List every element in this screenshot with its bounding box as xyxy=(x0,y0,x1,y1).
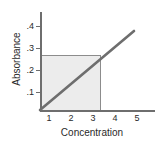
x-axis-title: Concentration xyxy=(28,128,156,138)
x-tick-label-4: 4 xyxy=(108,114,122,123)
x-tick-label-1: 1 xyxy=(42,114,56,123)
x-tick-label-3: 3 xyxy=(86,114,100,123)
y-axis-title: Absorbance xyxy=(12,14,22,104)
x-tick-label-2: 2 xyxy=(64,114,78,123)
absorbance-vs-concentration-chart: .4 .3 .2 .1 1 2 3 4 5 Concentration Abso… xyxy=(0,0,159,149)
x-tick-label-5: 5 xyxy=(130,114,144,123)
